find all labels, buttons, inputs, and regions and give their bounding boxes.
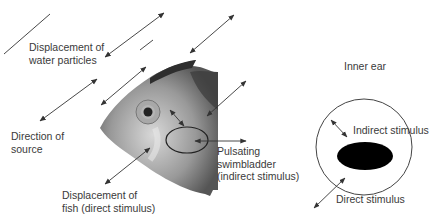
label-direct-stimulus: Direct stimulus: [336, 193, 405, 206]
label-fish-displacement: Displacement of fish (direct stimulus): [62, 189, 155, 214]
indirect-stimulus-arrow: [331, 120, 347, 137]
diagram-canvas: [0, 0, 434, 221]
label-line: source: [11, 143, 64, 156]
label-line: Direction of: [11, 130, 64, 143]
label-inner-ear: Inner ear: [344, 60, 386, 73]
label-swimbladder: Pulsating swimbladder (indirect stimulus…: [217, 145, 299, 183]
label-line: Displacement of: [29, 41, 104, 54]
label-line: Pulsating: [217, 145, 299, 158]
label-line: swimbladder: [217, 158, 299, 171]
water-particle-arrow: [105, 13, 164, 57]
label-line: water particles: [29, 54, 104, 67]
fish-image: [100, 60, 218, 196]
label-line: (indirect stimulus): [217, 170, 299, 183]
label-direction-source: Direction of source: [11, 130, 64, 155]
inner-ear-diagram: [314, 99, 412, 208]
label-indirect-stimulus: Indirect stimulus: [353, 124, 429, 137]
otolith: [337, 142, 393, 170]
water-particle-line: [140, 40, 153, 50]
label-line: Displacement of: [62, 189, 155, 202]
label-water-displacement: Displacement of water particles: [29, 41, 104, 66]
label-line: fish (direct stimulus): [62, 202, 155, 215]
water-particle-arrow: [40, 79, 97, 121]
water-particle-arrow: [190, 15, 234, 53]
fish-displacement-arrow: [105, 148, 150, 184]
